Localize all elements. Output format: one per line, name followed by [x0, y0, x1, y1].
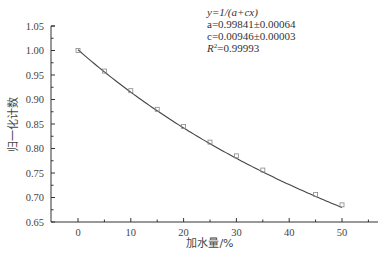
annotation-c: c=0.00946±0.00003: [207, 30, 296, 42]
x-tick-label: 50: [337, 227, 348, 238]
y-tick-label: 0.70: [26, 192, 44, 203]
y-tick-label: 0.80: [26, 143, 44, 154]
y-tick-label: 0.95: [26, 70, 44, 81]
annotation-a: a=0.99841±0.00064: [207, 18, 296, 30]
data-point-marker: [340, 203, 344, 207]
x-tick-label: 10: [126, 227, 137, 238]
y-tick-label: 0.75: [26, 168, 44, 179]
y-tick-label: 1.00: [26, 45, 44, 56]
annotation-r2: R2=0.99993: [206, 42, 260, 54]
y-tick-label: 0.85: [26, 119, 44, 130]
x-tick-label: 40: [284, 227, 295, 238]
axes: [51, 26, 378, 222]
x-tick-label: 0: [75, 227, 80, 238]
y-tick-label: 0.90: [26, 94, 44, 105]
y-tick-label: 0.65: [26, 217, 44, 228]
fit-curve: [78, 50, 342, 208]
y-tick-label: 1.05: [26, 21, 44, 32]
y-axis-title: 归一化计数: [6, 97, 20, 152]
data-points: [76, 49, 344, 207]
fit-annotation: y=1/(a+cx) a=0.99841±0.00064 c=0.00946±0…: [206, 6, 296, 54]
x-axis-title: 加水量/%: [186, 237, 233, 250]
x-axis-ticks: 01020304050: [75, 218, 368, 238]
chart: 0.650.700.750.800.850.900.951.001.05 010…: [0, 0, 386, 258]
